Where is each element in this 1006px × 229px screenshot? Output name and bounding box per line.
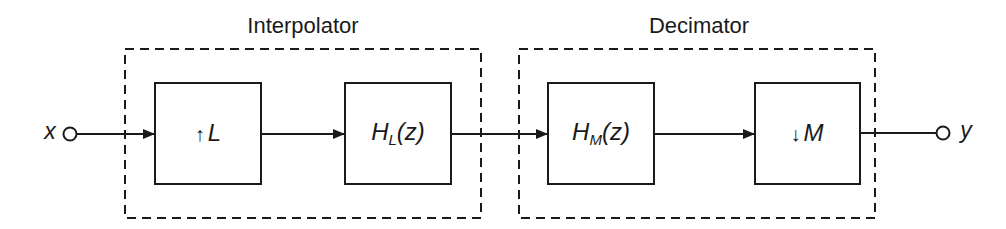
up-arrow-icon: ↑ [195,123,205,145]
decim-filter-label: HM(z) [572,120,630,147]
downsampler-label: ↓M [791,121,824,145]
output-label: y [960,119,972,142]
interpolator-title: Interpolator [247,15,358,37]
interp-filter-label: HL(z) [371,120,425,147]
input-label: x [44,120,56,143]
output-terminal-icon [937,127,950,140]
down-arrow-icon: ↓ [791,123,801,145]
input-terminal-icon [64,128,77,141]
upsampler-label: ↑L [195,121,221,145]
diagram-canvas [0,0,1006,229]
decimator-title: Decimator [649,15,749,37]
